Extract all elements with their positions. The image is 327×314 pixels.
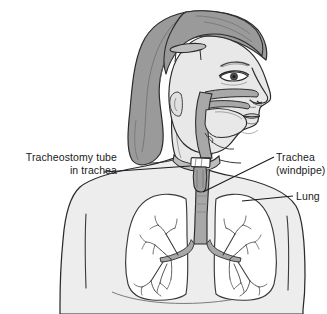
anatomical-illustration: Tracheostomy tube in trachea Trachea (wi… [0,0,327,314]
label-lung-line1: Lung [296,190,320,203]
label-trachea-line1: Trachea [276,151,325,164]
label-tracheostomy-tube: Tracheostomy tube in trachea [9,151,117,176]
label-tracheostomy-line1: Tracheostomy tube [9,151,117,164]
label-lung: Lung [296,190,320,203]
label-tracheostomy-line2: in trachea [9,164,117,177]
label-trachea: Trachea (windpipe) [276,151,325,176]
label-trachea-line2: (windpipe) [276,164,325,177]
